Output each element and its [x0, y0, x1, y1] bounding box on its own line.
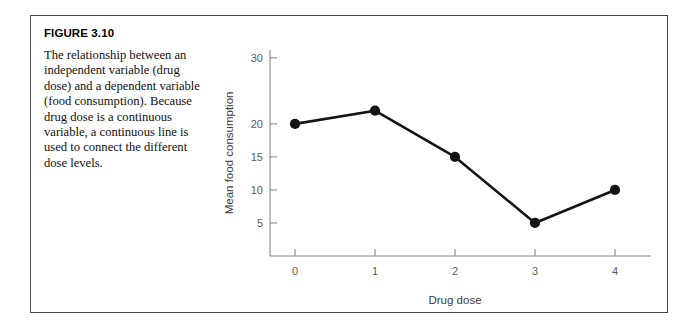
- x-tick-label: 3: [532, 265, 538, 277]
- y-tick-label: 15: [251, 151, 263, 163]
- data-series-line: [295, 111, 615, 223]
- data-point-marker: [610, 185, 620, 195]
- data-point-marker: [450, 152, 460, 162]
- y-tick-label: 5: [257, 217, 263, 229]
- y-tick-label: 20: [251, 118, 263, 130]
- x-tick-label: 0: [292, 265, 298, 277]
- x-axis-title: Drug dose: [428, 294, 481, 306]
- x-tick-label: 4: [612, 265, 618, 277]
- x-tick-label: 1: [372, 265, 378, 277]
- x-tick-label: 2: [452, 265, 458, 277]
- y-axis-title: Mean food consumption: [223, 92, 235, 215]
- figure-frame: FIGURE 3.10 The relationship between an …: [30, 15, 668, 313]
- data-point-marker: [370, 106, 380, 116]
- y-tick-label: 10: [251, 184, 263, 196]
- line-chart: 51015203001234Drug doseMean food consump…: [31, 16, 669, 314]
- data-point-marker: [290, 119, 300, 129]
- y-tick-label: 30: [251, 52, 263, 64]
- data-point-marker: [530, 218, 540, 228]
